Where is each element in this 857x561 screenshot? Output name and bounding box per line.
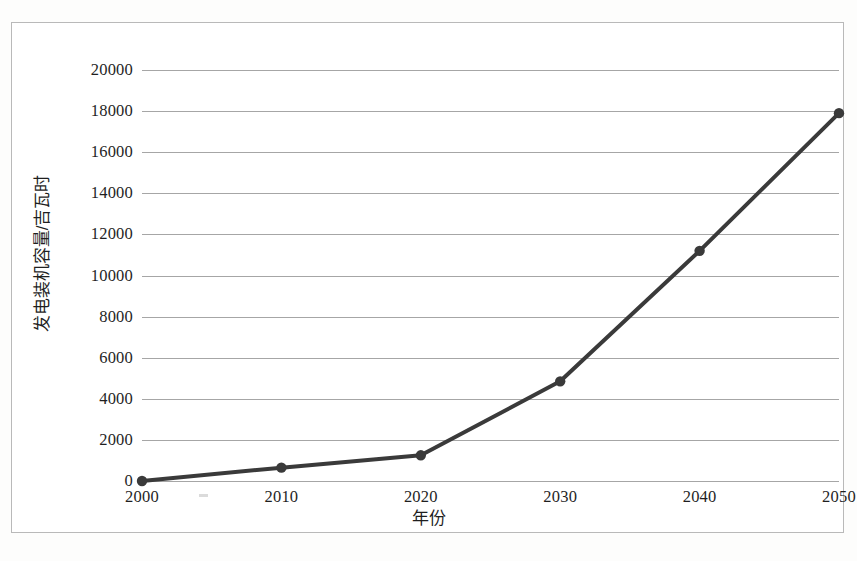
scan-artifact-speck [199, 494, 208, 497]
data-point-marker [137, 476, 147, 486]
y-axis-tick-label: 4000 [99, 389, 133, 409]
x-axis-title-label: 年份 [412, 509, 446, 528]
y-axis-title-label: 发电装机容量/吉瓦时 [29, 174, 54, 332]
line-series [142, 70, 839, 481]
y-axis-tick-label: 6000 [99, 348, 133, 368]
y-axis-tick-label: 12000 [91, 224, 133, 244]
plot-area: 0200040006000800010000120001400016000180… [142, 70, 839, 481]
scanned-page: 发电装机容量/吉瓦时 02000400060008000100001200014… [0, 0, 857, 561]
gridline [142, 481, 839, 482]
series-line [142, 113, 839, 481]
y-axis-tick-label: 16000 [91, 142, 133, 162]
data-point-marker [834, 108, 844, 118]
y-axis-tick-label: 8000 [99, 307, 133, 327]
data-point-marker [694, 246, 704, 256]
y-axis-tick-label: 18000 [91, 101, 133, 121]
data-point-marker [276, 462, 286, 472]
chart-frame: 发电装机容量/吉瓦时 02000400060008000100001200014… [11, 22, 844, 533]
x-axis-title: 年份 [12, 504, 845, 529]
data-point-marker [555, 376, 565, 386]
y-axis-title: 发电装机容量/吉瓦时 [28, 23, 54, 483]
y-axis-tick-label: 10000 [91, 266, 133, 286]
y-axis-tick-label: 14000 [91, 183, 133, 203]
data-point-marker [416, 450, 426, 460]
y-axis-tick-label: 20000 [91, 60, 133, 80]
y-axis-tick-label: 2000 [99, 430, 133, 450]
